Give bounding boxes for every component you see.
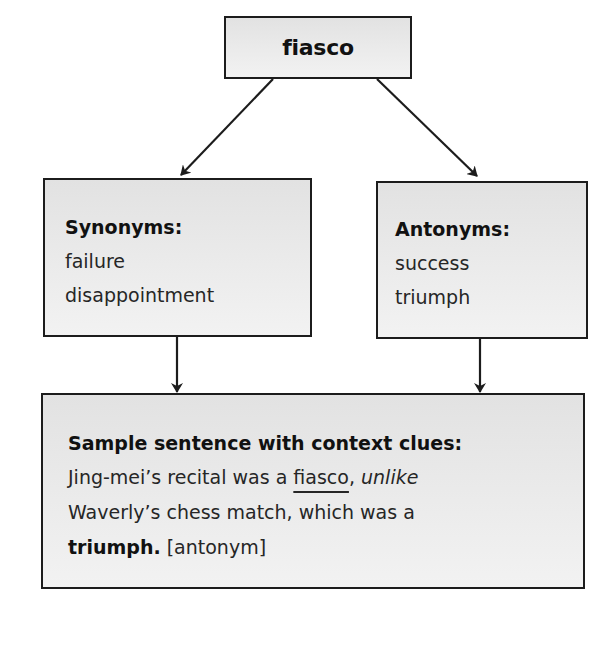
relationship-tag: [antonym] xyxy=(161,536,266,558)
arrow-root-to-antonyms xyxy=(377,79,477,176)
root-word-box: fiasco xyxy=(224,16,412,79)
sample-sentence-box: Sample sentence with context clues: Jing… xyxy=(41,393,585,589)
sample-sentence-heading: Sample sentence with context clues: xyxy=(68,426,583,460)
antonym-bold-word: triumph. xyxy=(68,536,161,558)
synonyms-box: Synonyms: failure disappointment xyxy=(43,178,312,337)
antonym-item: success xyxy=(395,246,586,280)
sentence-line-2: Waverly’s chess match, which was a xyxy=(68,495,583,530)
sentence-line-1: Jing-mei’s recital was a fiasco, unlike xyxy=(68,460,583,495)
synonym-item: disappointment xyxy=(65,278,310,312)
synonyms-heading: Synonyms: xyxy=(65,210,310,244)
context-clue-word: unlike xyxy=(361,466,418,488)
arrow-root-to-synonyms xyxy=(181,79,273,175)
sentence-line-3: triumph. [antonym] xyxy=(68,530,583,565)
root-word: fiasco xyxy=(282,35,353,60)
synonym-item: failure xyxy=(65,244,310,278)
antonym-item: triumph xyxy=(395,280,586,314)
sentence-text: Jing-mei’s recital was a xyxy=(68,466,293,488)
antonyms-box: Antonyms: success triumph xyxy=(376,181,588,339)
sentence-comma: , xyxy=(349,466,361,488)
target-word-underlined: fiasco xyxy=(293,466,349,488)
antonyms-heading: Antonyms: xyxy=(395,212,586,246)
